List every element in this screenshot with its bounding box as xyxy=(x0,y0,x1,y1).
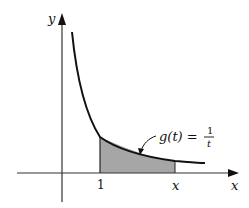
function-label-lhs: g(t) = xyxy=(159,129,198,144)
function-label-denominator: t xyxy=(207,138,212,149)
x-axis-arrow-icon xyxy=(228,169,239,177)
graph-figure: y x 1 x g(t) = 1 t xyxy=(0,0,249,208)
function-label-numerator: 1 xyxy=(207,125,213,136)
function-label: g(t) = 1 t xyxy=(159,125,214,149)
y-axis-arrow-icon xyxy=(58,13,66,25)
label-leader-arrow xyxy=(141,136,156,151)
x-axis-label: x xyxy=(231,178,239,193)
y-axis-label: y xyxy=(47,11,56,26)
tick-label-x: x xyxy=(172,178,180,193)
tick-label-1: 1 xyxy=(97,178,105,192)
